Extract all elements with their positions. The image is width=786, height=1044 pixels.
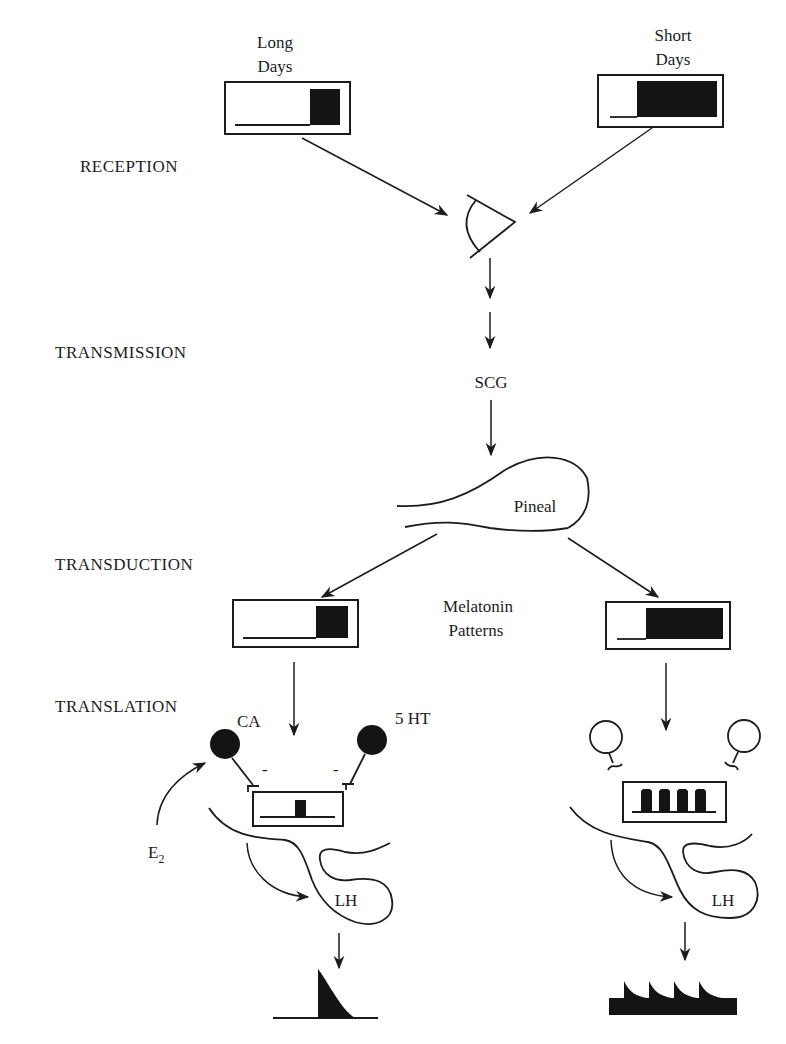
neuron-inactive-left [590, 721, 622, 753]
short-days-label-2: Days [656, 50, 691, 69]
inactive-terminal-right [725, 752, 738, 770]
long-gnrh-pulse-pattern [253, 792, 343, 826]
e2-arrow-to-ca [157, 763, 205, 825]
short-gnrh-pulse-pattern [623, 782, 726, 822]
pineal-label: Pineal [514, 497, 557, 516]
long-days-label-2: Days [258, 57, 293, 76]
left-portal-arrow [247, 843, 308, 897]
e2-label: E2 [148, 843, 164, 866]
short-gnrh-pulse [659, 789, 670, 812]
5ht-neuron-active [357, 725, 387, 755]
short-lh-output-pattern [609, 981, 737, 1015]
short-days-dark-bar [637, 81, 717, 117]
ca-neuron-active [210, 729, 240, 759]
short-melatonin-bar [646, 608, 723, 639]
5ht-axon-terminal [342, 754, 365, 790]
diagram-canvas: RECEPTION TRANSMISSION TRANSDUCTION TRAN… [0, 0, 786, 1044]
right-portal-arrow [611, 840, 672, 897]
stage-reception: RECEPTION [80, 157, 178, 176]
stage-transmission: TRANSMISSION [55, 343, 187, 362]
ca-inhibit-sign: - [262, 760, 268, 779]
stage-translation: TRANSLATION [55, 697, 178, 716]
arrow-pineal-to-long-melatonin [322, 534, 437, 597]
long-days-dark-bar [310, 89, 340, 125]
arrow-short-to-eye [530, 128, 652, 213]
long-days-group: Long Days [225, 33, 350, 134]
short-lh-pulses [609, 981, 737, 1015]
pineal-gland-shape [397, 458, 589, 531]
short-gnrh-pulse [677, 789, 688, 812]
short-melatonin-pattern [606, 602, 730, 649]
eye-icon [466, 195, 515, 258]
arrow-long-to-eye [302, 138, 447, 215]
ca-axon-terminal [232, 758, 259, 792]
melatonin-label-1: Melatonin [443, 597, 513, 616]
lh-right-label: LH [712, 891, 735, 910]
ca-label: CA [237, 712, 261, 731]
scg-label: SCG [474, 373, 507, 392]
short-days-group: Short Days [598, 26, 723, 127]
neuron-inactive-right [728, 720, 760, 752]
short-gnrh-pulse [641, 789, 652, 812]
short-days-label-1: Short [655, 26, 692, 45]
lh-left-label: LH [335, 891, 358, 910]
inactive-terminal-left [608, 753, 622, 770]
long-gnrh-pulse [295, 800, 306, 817]
long-melatonin-bar [316, 606, 348, 638]
long-melatonin-pattern [233, 600, 358, 647]
melatonin-label-2: Patterns [449, 621, 504, 640]
stage-transduction: TRANSDUCTION [55, 555, 193, 574]
short-gnrh-box [623, 782, 726, 822]
5ht-label: 5 HT [395, 709, 431, 728]
long-days-label-1: Long [257, 33, 293, 52]
long-lh-surge [318, 969, 355, 1018]
arrow-pineal-to-short-melatonin [568, 538, 658, 597]
long-lh-output-pattern [273, 969, 378, 1018]
5ht-inhibit-sign: - [333, 760, 339, 779]
short-gnrh-pulse [695, 789, 706, 812]
